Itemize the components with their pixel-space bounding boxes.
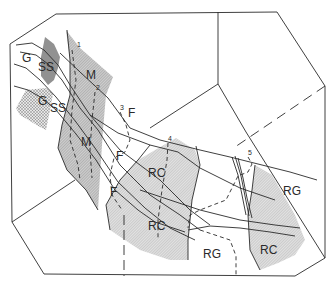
zone-label-rc-upper: RC	[148, 166, 166, 180]
dike-2	[235, 156, 249, 216]
zone-label-m-lower: M	[81, 135, 91, 149]
zone-label-ss-lower: SS	[50, 101, 66, 115]
zone-label-f-upper: F	[128, 106, 135, 120]
zone-label-rc-lower: RC	[148, 219, 166, 233]
frame-edge-right-inner	[218, 84, 246, 132]
frame-edge-lower-left	[12, 180, 75, 222]
zone-label-g-lower: G	[38, 94, 47, 108]
zone-label-f-lower: F	[110, 185, 117, 199]
zone-label-rc-right: RC	[260, 243, 278, 257]
zone-label-f-middle: F	[116, 149, 123, 163]
site-number-2: 2	[96, 84, 100, 91]
dike-1	[232, 157, 246, 215]
unit-m-area	[58, 30, 113, 210]
shaded-units	[16, 30, 305, 270]
site-number-1: 1	[77, 41, 81, 48]
zone-label-g-upper: G	[22, 51, 31, 65]
frame-dashed-edge	[235, 86, 325, 147]
site-number-5: 5	[248, 149, 252, 156]
site-number-3: 3	[120, 104, 124, 111]
zone-label-m-upper: M	[86, 68, 96, 82]
zone-label-ss-upper: SS	[38, 60, 54, 74]
zone-label-rg-bottom: RG	[203, 247, 221, 261]
site-number-4: 4	[168, 135, 172, 142]
frame-edge-diag-inner	[150, 84, 218, 128]
unit-g-lower-area	[16, 88, 53, 130]
zone-label-rg-right: RG	[283, 184, 301, 198]
geologic-map: G SS G SS M M F F F RC RC RC RG RG 1 2 3…	[0, 0, 333, 284]
